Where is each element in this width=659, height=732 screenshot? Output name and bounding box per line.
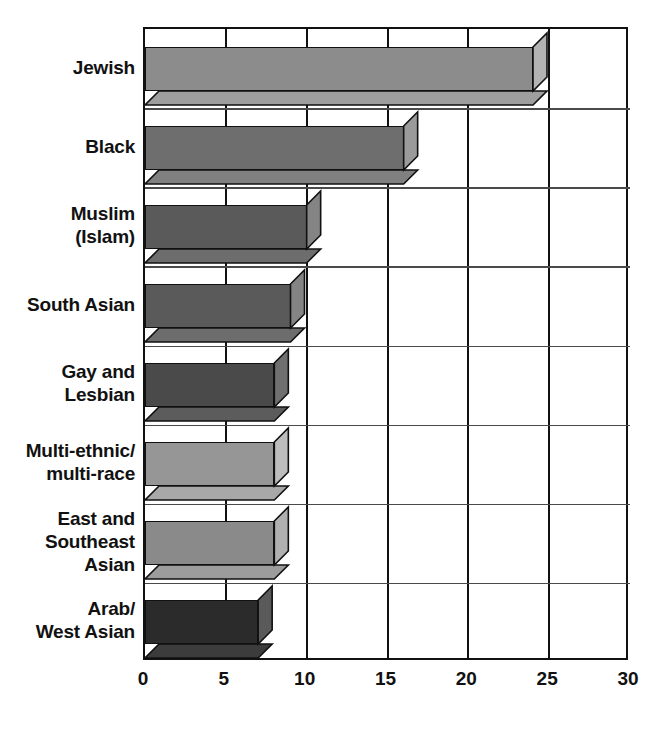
bar-3d-faces: [145, 521, 292, 583]
bar-side-face: [307, 191, 321, 249]
category-label-4: Gay and Lesbian: [61, 360, 135, 406]
bar-bottom-face: [145, 644, 272, 658]
bar-bottom-face: [145, 486, 288, 500]
x-tick-15: 15: [375, 668, 396, 690]
bar-3d-faces: [145, 126, 422, 188]
bar-bottom-face: [145, 249, 321, 263]
category-label-5: Multi-ethnic/ multi-race: [26, 439, 135, 485]
bar-bottom-face: [145, 565, 288, 579]
gridline-25: [548, 29, 550, 658]
bar-3d-faces: [145, 47, 551, 109]
x-tick-5: 5: [219, 668, 230, 690]
bar-side-face: [533, 33, 547, 91]
bar-5: [145, 442, 288, 500]
bar-side-face: [274, 428, 288, 486]
bar-side-face: [274, 349, 288, 407]
gridline-20: [467, 29, 469, 658]
bar-bottom-face: [145, 170, 418, 184]
bar-7: [145, 600, 272, 658]
bar-side-face: [274, 507, 288, 565]
x-tick-30: 30: [617, 668, 638, 690]
x-tick-10: 10: [294, 668, 315, 690]
category-label-7: Arab/ West Asian: [36, 597, 135, 643]
bar-2: [145, 205, 321, 263]
bar-bottom-face: [145, 407, 288, 421]
bar-0: [145, 47, 547, 105]
bar-side-face: [258, 586, 272, 644]
bar-3d-faces: [145, 284, 309, 346]
category-label-2: Muslim (Islam): [71, 202, 135, 248]
bar-3d-faces: [145, 363, 292, 425]
bar-side-face: [404, 112, 418, 170]
category-label-3: South Asian: [27, 292, 135, 315]
bar-6: [145, 521, 288, 579]
category-label-1: Black: [85, 134, 135, 157]
bar-3d-faces: [145, 205, 325, 267]
bar-chart: JewishBlackMuslim (Islam)South AsianGay …: [0, 0, 659, 732]
bar-3: [145, 284, 305, 342]
bar-bottom-face: [145, 91, 547, 105]
x-tick-25: 25: [537, 668, 558, 690]
bar-3d-faces: [145, 600, 276, 662]
bar-side-face: [291, 270, 305, 328]
bar-bottom-face: [145, 328, 305, 342]
bar-1: [145, 126, 418, 184]
x-tick-20: 20: [456, 668, 477, 690]
category-label-6: East and Southeast Asian: [45, 507, 135, 576]
bar-4: [145, 363, 288, 421]
x-tick-0: 0: [138, 668, 149, 690]
bar-3d-faces: [145, 442, 292, 504]
plot-area: [143, 27, 628, 660]
gridline-15: [387, 29, 389, 658]
category-label-0: Jewish: [73, 55, 135, 78]
